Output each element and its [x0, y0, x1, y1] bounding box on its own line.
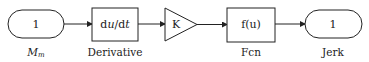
- outport-label: Jerk: [321, 46, 344, 58]
- fcn-block[interactable]: f(u): [227, 8, 275, 42]
- fcn-label: Fcn: [241, 46, 261, 58]
- fcn-expression: f(u): [241, 18, 261, 31]
- derivative-label: Derivative: [88, 46, 143, 58]
- outport-block[interactable]: 1: [305, 10, 362, 38]
- inport-block[interactable]: 1: [8, 10, 64, 38]
- gain-block[interactable]: K: [165, 8, 197, 41]
- inport-label: Mm: [26, 46, 45, 59]
- inport-number: 1: [33, 18, 40, 31]
- gain-value: K: [172, 18, 181, 31]
- derivative-block[interactable]: du/dt: [92, 8, 138, 41]
- derivative-expression: du/dt: [100, 18, 130, 31]
- gain-triangle-shape[interactable]: [165, 8, 197, 41]
- outport-number: 1: [330, 18, 337, 31]
- block-diagram-canvas: 1 Mm du/dt Derivative K f(u) Fcn 1 Jerk: [0, 0, 369, 62]
